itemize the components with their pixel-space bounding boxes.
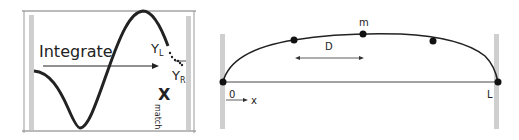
yl-label: YL [150,41,164,58]
left-panel: Integrate YL YR X match [22,11,196,133]
right-panel: m D 0 x L [220,17,502,129]
arrow-head-icon [152,63,159,69]
wavefunction-curve [34,11,168,128]
d-label: D [325,41,333,52]
yr-label: YR [171,68,186,85]
x-label: x [251,95,257,106]
m-label: m [359,17,369,28]
l-label: L [487,89,493,100]
origin-label: 0 [229,89,235,100]
endpoint-right [495,79,502,86]
integrate-label: Integrate [39,42,113,61]
right-wall [186,16,191,130]
point-m [360,31,367,38]
dotted-match-icon [169,52,186,66]
point-1 [291,37,298,44]
xmatch-label: X [158,85,171,104]
xmatch-subscript: match [153,104,162,129]
arrow-left-icon [295,56,300,60]
arrow-head-icon [243,98,248,102]
arrow-right-icon [359,56,364,60]
point-3 [430,38,437,45]
left-wall [29,15,34,130]
endpoint-left [220,79,227,86]
diagram-canvas: Integrate YL YR X match m D 0 x L [0,0,519,140]
